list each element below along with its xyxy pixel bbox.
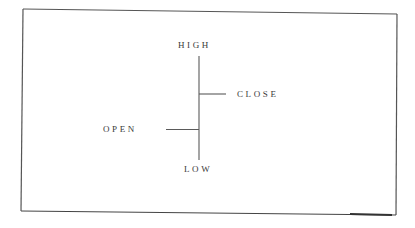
ohlc-diagram: HIGH CLOSE OPEN LOW bbox=[0, 0, 415, 228]
frame-right bbox=[396, 14, 397, 215]
low-label: LOW bbox=[184, 164, 212, 174]
ohlc-bar bbox=[166, 56, 226, 160]
open-label: OPEN bbox=[103, 124, 137, 134]
frame-left bbox=[21, 9, 23, 211]
frame-top bbox=[23, 9, 397, 14]
high-label: HIGH bbox=[178, 40, 211, 50]
frame-bottom bbox=[21, 211, 396, 215]
frame-bottom-smudge bbox=[350, 214, 392, 215]
close-label: CLOSE bbox=[237, 89, 279, 99]
